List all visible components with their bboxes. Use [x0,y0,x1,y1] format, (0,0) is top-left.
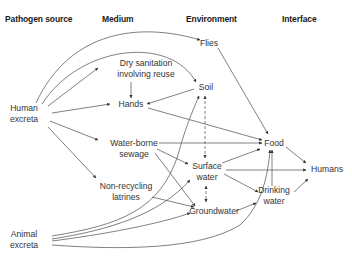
node-groundwater: Groundwater [189,206,239,217]
node-label-line: latrines [100,192,153,203]
arrow-surface-food [222,149,260,163]
node-label-line: Human [10,103,38,114]
arrow-surface-drinking [224,174,258,192]
arrow-animal-groundwater [52,213,190,241]
node-label-line: Drinking [258,185,290,196]
node-label-line: excreta [10,114,38,125]
node-hands: Hands [119,99,144,110]
node-label-line: Hands [119,99,144,110]
node-label-line: Surface [192,161,222,172]
node-drinking-water: Drinking water [258,185,290,207]
arrow-soil-hands [147,89,194,104]
arrow-flies-food [218,48,268,134]
node-label-line: Food [264,138,284,149]
node-label-line: water [258,196,290,207]
flow-arrows [0,0,352,267]
arrow-food-humans [286,147,306,163]
arrow-drinking-humans [294,179,308,192]
arrow-sewage-groundwater [155,153,195,206]
node-dry-sanitation: Dry sanitation involving reuse [117,58,174,80]
node-label-line: water [192,172,222,183]
arrow-human-latrines [48,127,96,178]
node-label-line: sewage [110,149,157,160]
node-label-line: Groundwater [189,206,239,217]
node-label-line: Dry sanitation [117,58,174,69]
node-water-borne-sewage: Water-borne sewage [110,138,157,160]
node-surface-water: Surface water [192,161,222,183]
node-label-line: involving reuse [117,69,174,80]
arrow-animal-soil [52,96,199,236]
node-label-line: Water-borne [110,138,157,149]
node-label-line: Non-recycling [100,181,153,192]
node-label-line: Animal [10,229,38,240]
node-non-recycling-latrines: Non-recycling latrines [100,181,153,203]
node-label-line: Soil [199,82,213,93]
arrow-human-hands [52,104,110,113]
node-flies: Flies [200,38,218,49]
node-soil: Soil [199,82,213,93]
node-humans: Humans [311,164,343,175]
node-label-line: Humans [311,164,343,175]
node-label-line: excreta [10,240,38,251]
node-animal-excreta: Animal excreta [10,229,38,251]
node-label-line: Flies [200,38,218,49]
node-food: Food [264,138,284,149]
node-human-excreta: Human excreta [10,103,38,125]
